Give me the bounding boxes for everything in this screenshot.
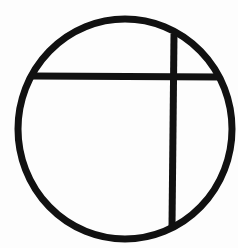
symbol-canvas: circle-with-cross-chords [0, 0, 238, 248]
circle-cross-symbol-icon [0, 0, 238, 248]
vertical-chord [172, 34, 174, 226]
horizontal-chord [33, 76, 220, 77]
outer-circle [18, 19, 232, 239]
